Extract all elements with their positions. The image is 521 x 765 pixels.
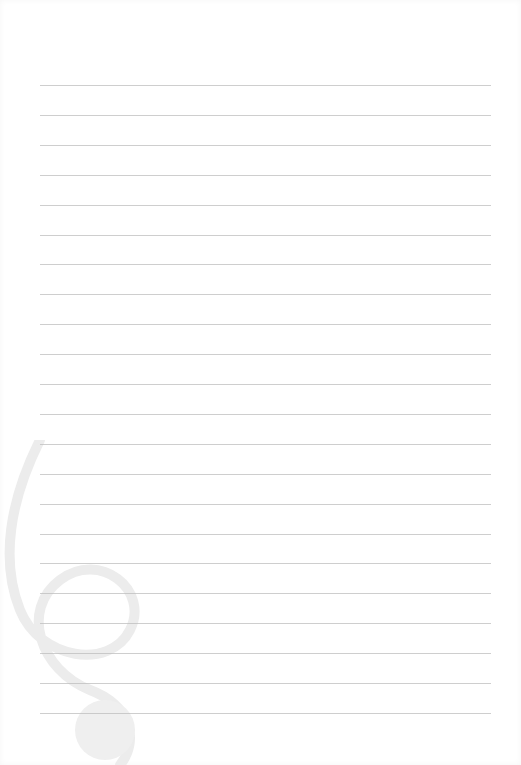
ruled-line xyxy=(40,474,491,475)
ruled-line xyxy=(40,414,491,415)
ruled-line xyxy=(40,444,491,445)
ruled-line xyxy=(40,593,491,594)
ruled-line xyxy=(40,205,491,206)
ruled-line xyxy=(40,294,491,295)
treble-clef-icon xyxy=(0,440,190,765)
ruled-line xyxy=(40,384,491,385)
ruled-line xyxy=(40,504,491,505)
ruled-line xyxy=(40,563,491,564)
ruled-line xyxy=(40,354,491,355)
ruled-line xyxy=(40,175,491,176)
ruled-line xyxy=(40,235,491,236)
ruled-line xyxy=(40,115,491,116)
ruled-line xyxy=(40,85,491,86)
ruled-line xyxy=(40,324,491,325)
ruled-line xyxy=(40,534,491,535)
ruled-line xyxy=(40,713,491,714)
ruled-line xyxy=(40,623,491,624)
ruled-line xyxy=(40,653,491,654)
lined-paper-page xyxy=(0,0,521,765)
ruled-line xyxy=(40,264,491,265)
ruled-line xyxy=(40,683,491,684)
ruled-line xyxy=(40,145,491,146)
